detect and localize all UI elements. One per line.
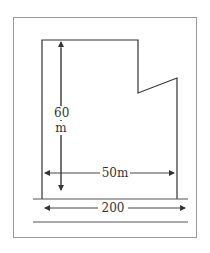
height-value-label: 60 (54, 106, 68, 120)
outer-width-label: 200 (99, 201, 127, 215)
height-unit-label: m (55, 121, 67, 135)
inner-width-label: 50m (101, 166, 129, 180)
plot-drawing (0, 0, 210, 253)
